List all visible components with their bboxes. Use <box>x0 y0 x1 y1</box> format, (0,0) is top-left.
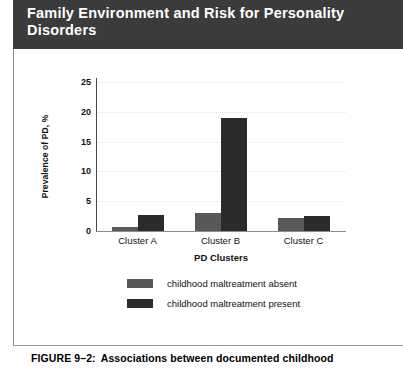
bar <box>195 213 221 231</box>
y-tick-label: 25 <box>81 77 91 87</box>
x-tick-label: Cluster A <box>118 235 157 246</box>
header-banner: Family Environment and Risk for Personal… <box>13 0 403 49</box>
chart-container: Prevalence of PD, % 0510152025 Cluster A… <box>14 50 403 344</box>
page-title: Family Environment and Risk for Personal… <box>27 5 391 39</box>
bar <box>138 215 164 231</box>
caption-divider <box>13 345 403 346</box>
bar <box>304 216 330 231</box>
figure-page: Family Environment and Risk for Personal… <box>0 0 403 375</box>
legend-swatch <box>127 279 153 288</box>
figure-number: FIGURE 9–2: <box>31 352 96 364</box>
figure-caption: FIGURE 9–2:Associations between document… <box>31 352 397 364</box>
legend-item: childhood maltreatment absent <box>127 273 387 293</box>
y-tick-label: 5 <box>86 196 91 206</box>
plot-area: 0510152025 Cluster ACluster BCluster C P… <box>96 82 345 231</box>
y-tick-label: 10 <box>81 166 91 176</box>
gridline <box>97 82 345 83</box>
x-tick-label: Cluster C <box>284 235 324 246</box>
bar <box>278 218 304 231</box>
bar <box>112 227 138 231</box>
figure-caption-text: Associations between documented childhoo… <box>101 352 334 364</box>
legend-label: childhood maltreatment absent <box>167 278 297 289</box>
x-axis-line <box>96 231 346 232</box>
x-axis-title: PD Clusters <box>96 252 346 263</box>
legend-swatch <box>127 299 153 308</box>
y-tick-label: 15 <box>81 137 91 147</box>
x-tick-label: Cluster B <box>201 235 240 246</box>
bar <box>221 118 247 231</box>
y-tick-label: 20 <box>81 107 91 117</box>
chart-legend: childhood maltreatment absentchildhood m… <box>127 273 387 313</box>
y-axis-title: Prevalence of PD, % <box>40 82 52 231</box>
legend-label: childhood maltreatment present <box>167 298 300 309</box>
legend-item: childhood maltreatment present <box>127 293 387 313</box>
gridline <box>97 112 345 113</box>
y-tick-label: 0 <box>86 226 91 236</box>
y-axis-line <box>96 78 97 231</box>
